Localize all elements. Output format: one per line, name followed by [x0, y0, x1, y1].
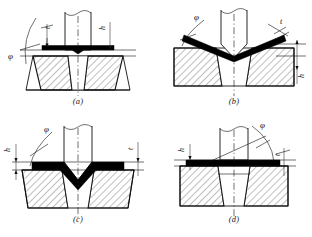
height-label-c: h [3, 148, 12, 152]
angle-label-d: φ [260, 120, 265, 130]
height-arrowhead-bot-c [14, 170, 17, 174]
thickness-label-b: t [280, 17, 283, 26]
angle-label-c: φ [44, 124, 49, 134]
caption-c: (c) [0, 214, 156, 224]
height-arrowhead-bot-b [295, 66, 298, 70]
die-block-right [244, 166, 288, 206]
height-label-b: h [297, 74, 306, 78]
panel-c: φ h t (c) [0, 118, 156, 237]
die-block-left [22, 170, 68, 208]
height-arrowhead-d [188, 156, 191, 160]
thickness-arrowhead-c [136, 158, 139, 162]
die-block-left [33, 56, 72, 90]
caption-a: (a) [0, 96, 156, 106]
height-label-d: h [177, 148, 186, 152]
die-block-left [180, 166, 224, 206]
angle-label-a: φ [8, 51, 13, 61]
sheet-workpiece [186, 160, 280, 166]
thickness-label-c: t [126, 147, 135, 150]
height-arrowhead-top-b [295, 40, 298, 44]
panel-a: φ t h (a) [0, 0, 156, 119]
angle-label-b: φ [194, 12, 199, 22]
height-arrowhead-top-c [14, 158, 17, 162]
caption-b: (b) [156, 96, 312, 106]
panel-d: φ h t (d) [156, 118, 312, 237]
caption-d: (d) [156, 214, 312, 224]
die-block-right [84, 56, 123, 90]
bending-die-figure: φ t h (a) [0, 0, 312, 237]
die-block-right [88, 170, 134, 208]
panel-b: φ t h (b) [156, 0, 312, 119]
thickness-tick-b1 [274, 27, 286, 34]
height-label-a: h [98, 26, 107, 30]
angle-leader [256, 140, 270, 148]
thickness-leader-d [276, 150, 290, 154]
angle-leader [20, 44, 40, 50]
